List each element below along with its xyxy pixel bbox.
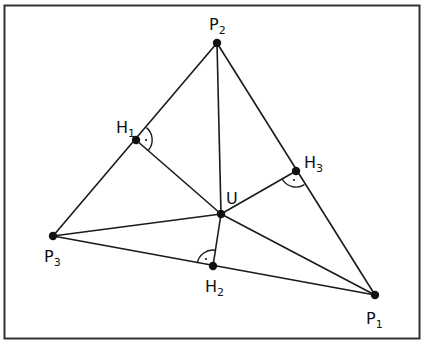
label-p1: P1 xyxy=(366,309,383,331)
right-angle-dot-h3 xyxy=(293,179,295,181)
label-h3: H3 xyxy=(304,153,323,175)
label-u: U xyxy=(226,189,238,208)
point-h2 xyxy=(209,262,217,270)
labels: P2 H1 H3 U P3 H2 P1 xyxy=(44,15,383,331)
perpendicular-lines xyxy=(136,140,296,266)
right-angle-dot-h2 xyxy=(205,258,207,260)
point-p1 xyxy=(371,291,379,299)
line-p2-u xyxy=(217,43,221,214)
right-angle-dot-h1 xyxy=(145,139,147,141)
point-h3 xyxy=(292,167,300,175)
line-h1-u xyxy=(136,140,221,214)
right-angle-arc-h1 xyxy=(147,128,153,151)
right-angle-arc-h2 xyxy=(197,250,215,263)
line-p3-u xyxy=(53,214,221,236)
line-h2-u xyxy=(213,214,221,266)
point-p2 xyxy=(213,39,221,47)
line-p1-u xyxy=(221,214,375,295)
label-p3: P3 xyxy=(44,247,61,269)
point-u xyxy=(217,210,225,218)
triangle-diagram: P2 H1 H3 U P3 H2 P1 xyxy=(0,0,424,344)
label-p2: P2 xyxy=(209,15,226,37)
label-h1: H1 xyxy=(116,118,135,140)
diagram-canvas: P2 H1 H3 U P3 H2 P1 xyxy=(0,0,424,344)
label-h2: H2 xyxy=(205,277,224,299)
point-p3 xyxy=(49,232,57,240)
